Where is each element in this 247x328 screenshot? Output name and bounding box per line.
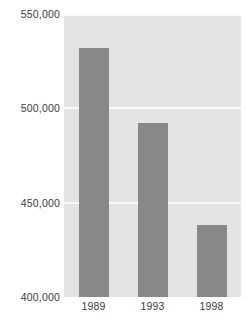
bar xyxy=(79,48,109,297)
y-tick-label: 550,000 xyxy=(0,9,60,20)
y-tick-label: 450,000 xyxy=(0,198,60,209)
x-tick-label: 1993 xyxy=(123,301,182,312)
gridline xyxy=(64,14,241,16)
plot-area xyxy=(64,14,241,297)
bar-chart: 400,000450,000500,000550,000 19891993199… xyxy=(0,0,247,328)
x-axis: 198919931998 xyxy=(64,301,241,321)
y-axis: 400,000450,000500,000550,000 xyxy=(0,0,60,328)
x-tick-label: 1998 xyxy=(182,301,241,312)
y-tick-label: 500,000 xyxy=(0,103,60,114)
x-tick-label: 1989 xyxy=(64,301,123,312)
bar xyxy=(138,123,168,297)
y-tick-label: 400,000 xyxy=(0,292,60,303)
bar xyxy=(197,225,227,297)
